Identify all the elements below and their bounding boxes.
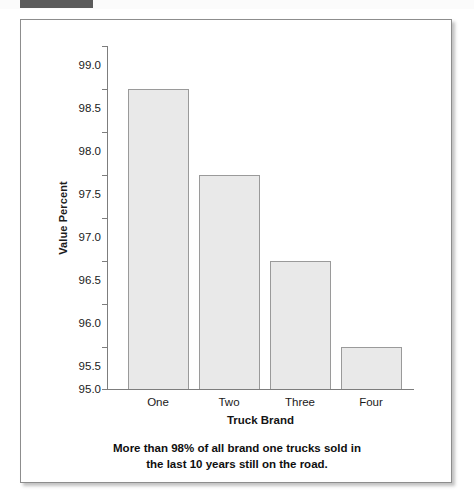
bar-one — [128, 89, 189, 390]
bar-four — [341, 347, 402, 390]
plot-area: Value Percent 99.0 98.5 98.0 97.5 97.0 9… — [21, 20, 453, 484]
y-tick-mark — [102, 304, 107, 305]
y-tick-mark — [102, 89, 107, 90]
y-tick-mark — [102, 261, 107, 262]
y-tick-label: 99.0 — [57, 59, 101, 71]
y-tick-label: 96.5 — [57, 274, 101, 286]
bar-two — [199, 175, 260, 390]
x-axis-label: Truck Brand — [107, 414, 414, 426]
x-tick-label-two: Two — [218, 396, 239, 408]
y-tick-label: 97.5 — [57, 188, 101, 200]
x-tick-label-one: One — [147, 396, 169, 408]
x-tick-label-three: Three — [285, 396, 315, 408]
y-tick-label: 97.0 — [57, 231, 101, 243]
chart-panel: Value Percent 99.0 98.5 98.0 97.5 97.0 9… — [20, 19, 452, 483]
bar-three — [270, 261, 331, 390]
y-tick-mark — [102, 132, 107, 133]
y-tick-label: 95.5 — [57, 360, 101, 372]
y-tick-label: 96.0 — [57, 317, 101, 329]
chart-caption-line-2: the last 10 years still on the road. — [57, 456, 417, 472]
y-tick-label: 95.0 — [57, 383, 101, 395]
chart-caption-line-1: More than 98% of all brand one trucks so… — [57, 440, 417, 456]
y-tick-label-group: 99.0 98.5 98.0 97.5 97.0 96.5 96.0 95.5 … — [49, 20, 101, 484]
x-tick-label-four: Four — [359, 396, 383, 408]
y-tick-mark — [102, 46, 107, 47]
y-tick-mark — [102, 175, 107, 176]
y-tick-label: 98.5 — [57, 102, 101, 114]
x-axis-line — [107, 389, 414, 390]
y-tick-mark — [102, 347, 107, 348]
page-top-marker — [20, 0, 93, 8]
y-tick-mark — [102, 218, 107, 219]
chart-caption: More than 98% of all brand one trucks so… — [57, 440, 417, 472]
y-axis-line — [107, 46, 108, 390]
y-tick-label: 98.0 — [57, 145, 101, 157]
